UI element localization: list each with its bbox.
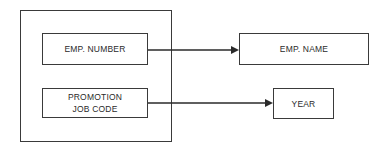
emp-number-box: EMP. NUMBER [42, 33, 148, 65]
composite-key-box [20, 10, 172, 142]
year-box: YEAR [273, 88, 334, 119]
promotion-job-code-label: PROMOTION JOB CODE [68, 91, 122, 115]
emp-number-label: EMP. NUMBER [64, 43, 125, 55]
year-label: YEAR [292, 98, 316, 110]
emp-name-label: EMP. NAME [280, 43, 328, 55]
promotion-job-code-box: PROMOTION JOB CODE [42, 88, 148, 118]
arrowhead-icon [265, 99, 273, 107]
emp-name-box: EMP. NAME [239, 33, 369, 65]
arrowhead-icon [231, 46, 239, 54]
